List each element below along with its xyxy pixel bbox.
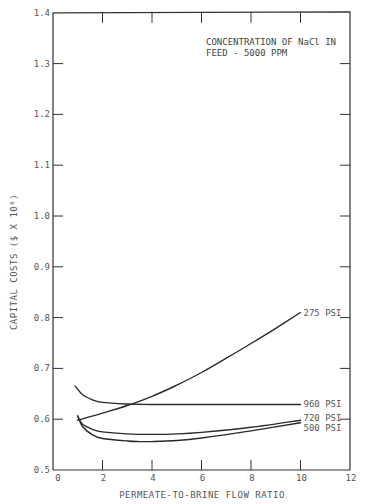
x-tick-label: 12 — [346, 473, 357, 483]
series-label-720-psi: 720 PSI — [304, 413, 342, 423]
y-tick-label: 1.0 — [34, 211, 50, 221]
x-tick-label: 0 — [55, 473, 60, 483]
chart-title-line: FEED - 5000 PPM — [206, 48, 288, 58]
y-tick-label: 1.3 — [34, 59, 50, 69]
y-tick-label: 1.4 — [34, 8, 50, 18]
x-tick-label: 8 — [249, 473, 254, 483]
y-tick-label: 0.8 — [34, 313, 50, 323]
y-axis-label: CAPITAL COSTS ($ X 10⁶) — [9, 194, 19, 330]
chart-title: CONCENTRATION OF NaCl INFEED - 5000 PPM — [206, 37, 336, 58]
y-tick-label: 0.7 — [34, 363, 50, 373]
chart: 0.50.60.70.80.91.01.11.21.31.4 024681012… — [0, 0, 370, 504]
series-label-275-psi: 275 PSI — [304, 308, 342, 318]
y-tick-label: 0.6 — [34, 414, 50, 424]
x-axis-label: PERMEATE-TO-BRINE FLOW RATIO — [119, 490, 285, 500]
y-tick-label: 1.2 — [34, 109, 50, 119]
curves — [75, 313, 300, 442]
curve-500-psi — [78, 416, 301, 442]
curve-720-psi — [78, 417, 301, 435]
x-tick-label: 10 — [296, 473, 307, 483]
x-tick-label: 6 — [200, 473, 205, 483]
series-label-500-psi: 500 PSI — [304, 423, 342, 433]
chart-title-line: CONCENTRATION OF NaCl IN — [206, 37, 336, 47]
y-tick-label: 0.5 — [34, 465, 50, 475]
x-tick-label: 4 — [150, 473, 155, 483]
series-label-960-psi: 960 PSI — [304, 399, 342, 409]
y-tick-label: 1.1 — [34, 160, 50, 170]
series-labels: 275 PSI960 PSI720 PSI500 PSI — [304, 308, 342, 433]
x-tick-label: 2 — [101, 473, 106, 483]
y-tick-label: 0.9 — [34, 262, 50, 272]
curve-960-psi — [75, 386, 300, 404]
